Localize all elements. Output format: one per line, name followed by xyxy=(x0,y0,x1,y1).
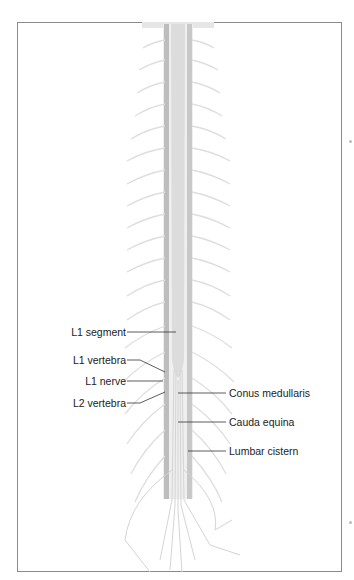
spinal-cord xyxy=(171,24,185,378)
margin-mark xyxy=(349,521,352,524)
right-vertebral-edge xyxy=(187,24,192,499)
spinal-cord-illustration xyxy=(0,0,354,580)
label-l2-vertebra: L2 vertebra xyxy=(73,397,126,409)
margin-mark xyxy=(349,140,352,143)
label-lumbar-cistern: Lumbar cistern xyxy=(229,445,298,457)
label-l1-vertebra: L1 vertebra xyxy=(73,354,126,366)
label-l1-nerve: L1 nerve xyxy=(85,375,126,387)
label-l1-segment: L1 segment xyxy=(71,326,126,338)
label-conus-medullaris: Conus medullaris xyxy=(229,387,310,399)
label-cauda-equina: Cauda equina xyxy=(229,416,294,428)
left-vertebral-edge xyxy=(164,24,169,499)
